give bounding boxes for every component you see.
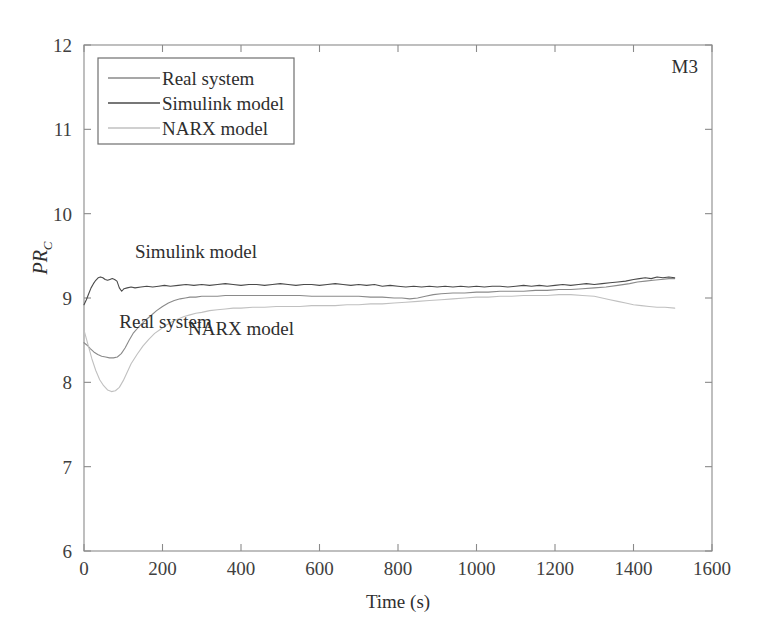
x-tick-label-1600: 1600 [693, 558, 731, 579]
y-tick-label-10: 10 [53, 204, 72, 225]
x-axis-title: Time (s) [366, 591, 430, 613]
x-tick-label-1200: 1200 [536, 558, 574, 579]
x-tick-label-1400: 1400 [615, 558, 653, 579]
y-axis-title-main: PRC [29, 241, 55, 275]
x-tick-label-600: 600 [305, 558, 334, 579]
x-tick-label-800: 800 [384, 558, 413, 579]
x-tick-label-400: 400 [227, 558, 256, 579]
y-tick-label-11: 11 [54, 119, 72, 140]
line-chart: 020040060080010001200140016006789101112T… [0, 0, 764, 630]
x-tick-label-1000: 1000 [458, 558, 496, 579]
y-axis-title-sub: C [40, 241, 55, 250]
legend-label-1: Simulink model [162, 93, 284, 114]
y-tick-label-6: 6 [63, 541, 73, 562]
annotation-4: NARX model [188, 318, 294, 339]
y-axis-title: PRC [29, 241, 55, 275]
x-tick-label-200: 200 [148, 558, 177, 579]
chart-figure: 020040060080010001200140016006789101112T… [0, 0, 764, 630]
series-line-simulink-model [84, 277, 675, 305]
legend-label-0: Real system [162, 68, 255, 89]
legend-label-2: NARX model [162, 118, 268, 139]
y-tick-label-8: 8 [63, 372, 73, 393]
corner-label-m3: M3 [672, 56, 698, 77]
y-tick-label-12: 12 [53, 35, 72, 56]
y-tick-label-7: 7 [63, 457, 73, 478]
x-tick-label-0: 0 [79, 558, 89, 579]
annotation-2: Simulink model [135, 241, 257, 262]
series-line-narx-model [84, 295, 675, 392]
y-tick-label-9: 9 [63, 288, 73, 309]
